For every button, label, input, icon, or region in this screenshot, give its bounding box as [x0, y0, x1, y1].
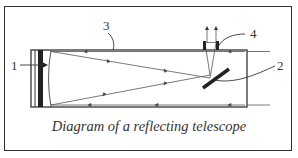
label-3: 3 — [103, 18, 110, 33]
diagram-caption: Diagram of a reflecting telescope — [0, 118, 298, 135]
label-2: 2 — [277, 58, 284, 73]
primary-mirror — [35, 50, 51, 107]
leader-lines — [20, 33, 275, 81]
eyepiece — [203, 41, 219, 50]
telescope-tube — [31, 50, 270, 107]
label-1-arrow-icon — [43, 63, 48, 68]
secondary-mirror — [203, 69, 229, 88]
label-4: 4 — [250, 26, 257, 41]
label-1: 1 — [11, 58, 18, 73]
reflected-rays — [51, 28, 216, 105]
